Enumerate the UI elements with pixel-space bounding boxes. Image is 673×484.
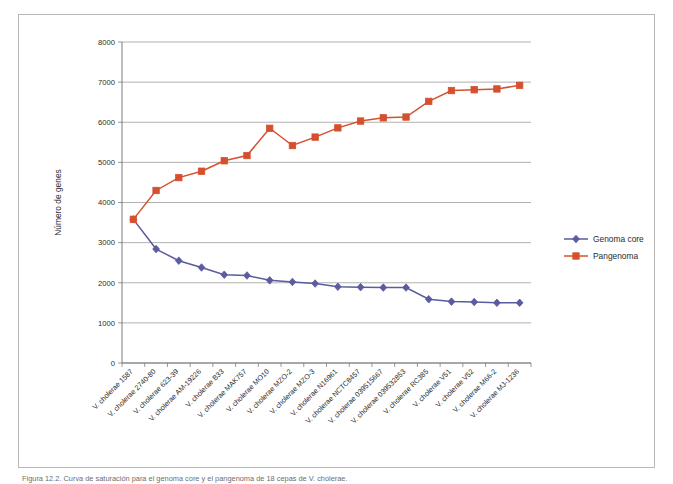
series-data-point <box>289 142 295 148</box>
series-data-point <box>494 86 500 92</box>
series-data-point <box>403 284 410 292</box>
y-axis-tick-label: 1000 <box>98 319 115 328</box>
data-series-group <box>130 82 523 306</box>
series-data-point <box>289 278 296 286</box>
y-axis-tick-labels: 010002000300040005000600070008000 <box>98 38 115 368</box>
series-data-point <box>175 257 182 265</box>
series-data-point <box>471 87 477 93</box>
series-data-point <box>130 216 136 222</box>
series-data-point <box>221 271 228 279</box>
series-data-point <box>176 174 182 180</box>
y-axis-tick-label: 3000 <box>98 238 115 247</box>
y-axis-title-text: Número de genes <box>53 169 63 236</box>
series-data-point <box>221 158 227 164</box>
legend-marker-diamond <box>573 235 580 243</box>
series-data-point <box>312 134 318 140</box>
series-data-point <box>516 82 522 88</box>
series-data-point <box>471 298 478 306</box>
legend-item-label: Genoma core <box>593 234 644 244</box>
series-data-point <box>448 298 455 306</box>
series-data-point <box>516 299 523 307</box>
series-line <box>133 85 519 219</box>
series-data-point <box>380 284 387 292</box>
y-axis-tick-label: 4000 <box>98 198 115 207</box>
y-axis-tick-label: 6000 <box>98 118 115 127</box>
series-line <box>133 219 519 302</box>
figure-frame: 010002000300040005000600070008000 V. cho… <box>18 14 655 468</box>
series-data-point <box>244 152 250 158</box>
series-data-point <box>357 118 363 124</box>
y-axis-title: Número de genes <box>53 169 63 236</box>
y-axis-tick-label: 2000 <box>98 279 115 288</box>
saturation-curve-chart: 010002000300040005000600070008000 V. cho… <box>19 15 656 469</box>
series-data-point <box>403 114 409 120</box>
series-data-point <box>448 87 454 93</box>
series-data-point <box>266 125 272 131</box>
y-axis-tick-label: 5000 <box>98 158 115 167</box>
x-axis-category-labels: V. cholerae 1587V. cholerae 2740-80V. ch… <box>90 367 521 425</box>
series-data-point <box>312 280 319 288</box>
series-data-point <box>425 295 432 303</box>
series-data-point <box>198 264 205 272</box>
y-axis-tick-label: 7000 <box>98 78 115 87</box>
legend-item-label: Pangenoma <box>593 251 639 261</box>
y-axis-tick-label: 0 <box>111 359 115 368</box>
series-data-point <box>494 299 501 307</box>
series-data-point <box>335 125 341 131</box>
series-data-point <box>380 115 386 121</box>
series-data-point <box>334 283 341 291</box>
series-data-point <box>357 283 364 291</box>
series-data-point <box>198 168 204 174</box>
legend-marker-square <box>573 253 579 259</box>
figure-caption: Figura 12.2. Curva de saturación para el… <box>22 474 652 483</box>
chart-legend: Genoma corePangenoma <box>564 234 644 261</box>
series-data-point <box>426 98 432 104</box>
series-data-point <box>244 272 251 280</box>
y-axis-tick-label: 8000 <box>98 38 115 47</box>
axis-group <box>118 42 531 367</box>
series-data-point <box>153 187 159 193</box>
chart-canvas: 010002000300040005000600070008000 V. cho… <box>19 15 656 469</box>
